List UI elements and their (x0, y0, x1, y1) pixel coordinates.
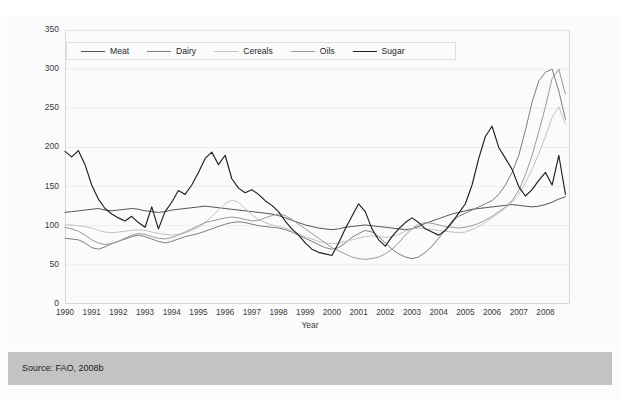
legend-label: Meat (110, 46, 129, 56)
legend-swatch-dairy-icon (147, 51, 171, 52)
y-axis-tick: 150 (33, 182, 59, 191)
y-axis-tick: 200 (33, 142, 59, 151)
x-axis-tick: 1997 (238, 308, 266, 317)
legend-swatch-sugar-icon (353, 51, 377, 52)
y-axis-tick: 300 (33, 64, 59, 73)
legend-label: Sugar (382, 46, 405, 56)
x-axis-tick: 2003 (398, 308, 426, 317)
x-axis-tick: 2002 (371, 308, 399, 317)
x-axis-tick: 2001 (345, 308, 373, 317)
y-axis-tick: 50 (33, 260, 59, 269)
legend-item-sugar[interactable]: Sugar (353, 46, 405, 56)
x-axis-tick: 2004 (425, 308, 453, 317)
legend-swatch-oils-icon (291, 51, 315, 52)
x-axis-title: Year (0, 320, 620, 330)
legend-item-cereals[interactable]: Cereals (214, 46, 273, 56)
x-axis-tick: 1991 (78, 308, 106, 317)
x-axis-tick: 1993 (131, 308, 159, 317)
legend-label: Oils (320, 46, 335, 56)
x-axis-tick: 1999 (291, 308, 319, 317)
legend-item-meat[interactable]: Meat (81, 46, 129, 56)
x-axis-tick: 1990 (51, 308, 79, 317)
source-caption: Source: FAO, 2008b (22, 363, 104, 373)
legend-swatch-meat-icon (81, 51, 105, 52)
x-axis-tick: 1994 (158, 308, 186, 317)
y-axis-tick: 350 (33, 25, 59, 34)
legend-label: Dairy (176, 46, 196, 56)
x-axis-tick: 2005 (451, 308, 479, 317)
x-axis-tick: 1992 (104, 308, 132, 317)
x-axis-tick: 1995 (184, 308, 212, 317)
legend-swatch-cereals-icon (214, 51, 238, 52)
figure-container: 050100150200250300350 199019911992199319… (0, 0, 620, 399)
x-axis-tick: 2000 (318, 308, 346, 317)
legend-label: Cereals (243, 46, 273, 56)
chart-legend: MeatDairyCerealsOilsSugar (66, 42, 456, 60)
x-axis-tick: 1996 (211, 308, 239, 317)
x-axis-tick: 2007 (505, 308, 533, 317)
legend-item-oils[interactable]: Oils (291, 46, 335, 56)
y-axis-tick: 250 (33, 103, 59, 112)
y-axis-tick: 0 (33, 299, 59, 308)
y-axis-tick: 100 (33, 221, 59, 230)
data-series-group (65, 69, 565, 259)
series-line-oils (65, 69, 565, 259)
x-axis-tick: 2006 (478, 308, 506, 317)
x-axis-tick: 2008 (531, 308, 559, 317)
legend-item-dairy[interactable]: Dairy (147, 46, 196, 56)
x-axis-tick: 1998 (265, 308, 293, 317)
